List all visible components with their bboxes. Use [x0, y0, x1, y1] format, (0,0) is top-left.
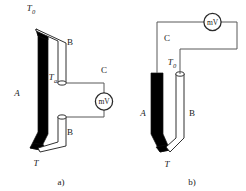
label-conductor-c-b: C — [164, 33, 170, 43]
panel-a-millivolt-meter: mV — [95, 93, 112, 110]
label-conductor-b-upper: B — [67, 37, 73, 47]
panel-a-caption: a) — [58, 177, 65, 187]
panel-b-caption: b) — [188, 177, 196, 187]
label-conductor-a-b: A — [139, 108, 146, 118]
label-conductor-c: C — [101, 65, 107, 75]
label-conductor-a: A — [13, 88, 20, 98]
thermocouple-figure: mV T0 B C A Ta B T a) — [0, 0, 246, 191]
label-conductor-b-b: B — [189, 108, 195, 118]
label-conductor-b-lower: B — [67, 127, 73, 137]
meter-label-b: mV — [207, 18, 219, 27]
panel-b-millivolt-meter: mV — [204, 13, 221, 30]
conductor-b-upper-terminal — [58, 81, 66, 85]
conductor-b-lower-terminal — [58, 115, 66, 119]
meter-label: mV — [98, 97, 110, 106]
